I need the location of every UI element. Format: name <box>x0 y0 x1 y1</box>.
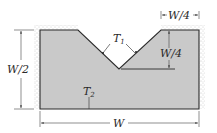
notch-width-label: W/4 <box>168 9 190 22</box>
width-label: W <box>113 117 126 130</box>
t1-label: T1 <box>113 32 125 46</box>
height-label: W/2 <box>7 63 29 76</box>
t1-leaders <box>103 44 135 53</box>
conduction-diagram: T1 T2 W/4 W/4 W/2 W <box>0 0 217 133</box>
notch-depth-label: W/4 <box>160 47 182 60</box>
